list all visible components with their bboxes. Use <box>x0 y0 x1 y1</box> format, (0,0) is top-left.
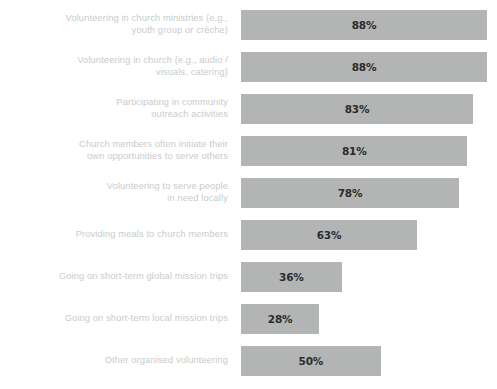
chart-row: Other organised volunteering 50% <box>0 346 497 376</box>
bar[interactable]: 63% <box>241 220 417 250</box>
chart-row: Participating in community outreach acti… <box>0 94 497 124</box>
bar-value-label: 28% <box>268 313 293 325</box>
bar-value-label: 36% <box>279 271 304 283</box>
chart-row: Volunteering to serve people in need loc… <box>0 178 497 208</box>
bar-track: 88% <box>241 52 497 82</box>
category-label: Volunteering to serve people in need loc… <box>0 181 228 204</box>
chart-row: Volunteering in church ministries (e.g.,… <box>0 10 497 40</box>
category-label: Going on short-term global mission trips <box>0 271 228 283</box>
chart-row: Church members often initiate their own … <box>0 136 497 166</box>
bar-value-label: 88% <box>352 61 377 73</box>
chart-row: Going on short-term local mission trips … <box>0 304 497 334</box>
chart-row: Going on short-term global mission trips… <box>0 262 497 292</box>
bar-value-label: 81% <box>342 145 367 157</box>
category-label: Other organised volunteering <box>0 355 228 367</box>
category-label: Going on short-term local mission trips <box>0 313 228 325</box>
bar-track: 28% <box>241 304 497 334</box>
bar-track: 88% <box>241 10 497 40</box>
category-label: Participating in community outreach acti… <box>0 97 228 120</box>
bar-track: 81% <box>241 136 497 166</box>
category-label: Church members often initiate their own … <box>0 139 228 162</box>
bar[interactable]: 50% <box>241 346 381 376</box>
bar-value-label: 83% <box>345 103 370 115</box>
category-label: Providing meals to church members <box>0 229 228 241</box>
category-label: Volunteering in church (e.g., audio / vi… <box>0 55 228 78</box>
category-label: Volunteering in church ministries (e.g.,… <box>0 13 228 36</box>
bar[interactable]: 88% <box>241 10 487 40</box>
bar[interactable]: 88% <box>241 52 487 82</box>
chart-row: Providing meals to church members 63% <box>0 220 497 250</box>
chart-row: Volunteering in church (e.g., audio / vi… <box>0 52 497 82</box>
bar-value-label: 78% <box>338 187 363 199</box>
bar-track: 83% <box>241 94 497 124</box>
bar[interactable]: 78% <box>241 178 459 208</box>
bar-value-label: 63% <box>317 229 342 241</box>
bar[interactable]: 83% <box>241 94 473 124</box>
horizontal-bar-chart: Volunteering in church ministries (e.g.,… <box>0 0 497 389</box>
bar-track: 78% <box>241 178 497 208</box>
bar-track: 36% <box>241 262 497 292</box>
bar[interactable]: 28% <box>241 304 319 334</box>
bar-track: 63% <box>241 220 497 250</box>
bar-value-label: 88% <box>352 19 377 31</box>
bar[interactable]: 36% <box>241 262 342 292</box>
bar-track: 50% <box>241 346 497 376</box>
bar-value-label: 50% <box>299 355 324 367</box>
bar[interactable]: 81% <box>241 136 467 166</box>
